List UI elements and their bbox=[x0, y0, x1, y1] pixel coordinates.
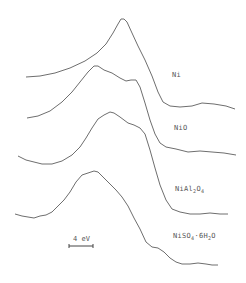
series-label-3: NiSO4·6H2O bbox=[173, 232, 216, 241]
scale-bar bbox=[69, 244, 93, 248]
series-label-2: NiAl2O4 bbox=[175, 185, 204, 194]
series-label-0: Ni bbox=[172, 71, 181, 79]
series-label-1: NiO bbox=[174, 124, 188, 132]
spectrum-curve-0 bbox=[26, 19, 235, 109]
spectra-curves bbox=[15, 19, 236, 265]
scale-bar-label: 4 eV bbox=[73, 235, 90, 243]
spectrum-curve-1 bbox=[27, 66, 236, 155]
